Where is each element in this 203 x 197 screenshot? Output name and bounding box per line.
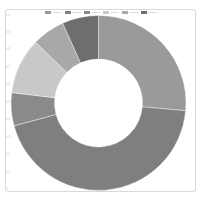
doughnut-slices[interactable] — [11, 16, 186, 191]
doughnut-slice[interactable] — [14, 107, 186, 191]
doughnut-chart — [0, 0, 203, 197]
doughnut-slice[interactable] — [99, 16, 187, 111]
